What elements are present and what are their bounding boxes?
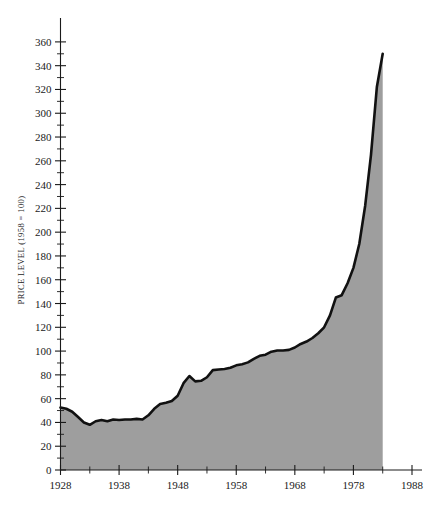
y-tick-label: 100 bbox=[35, 345, 52, 357]
y-tick-label: 180 bbox=[35, 250, 52, 262]
x-tick-label: 1988 bbox=[401, 479, 424, 491]
x-tick-label: 1958 bbox=[225, 479, 248, 491]
y-tick-label: 160 bbox=[35, 274, 52, 286]
y-tick-label: 280 bbox=[35, 131, 52, 143]
y-axis-title: PRICE LEVEL (1958 = 100) bbox=[16, 196, 26, 305]
y-tick-label: 200 bbox=[35, 226, 52, 238]
x-tick-label: 1948 bbox=[167, 479, 190, 491]
y-tick-label: 140 bbox=[35, 298, 52, 310]
y-tick-label: 260 bbox=[35, 155, 52, 167]
x-tick-label: 1978 bbox=[342, 479, 365, 491]
y-tick-label: 40 bbox=[41, 416, 53, 428]
x-tick-label: 1938 bbox=[108, 479, 131, 491]
y-tick-label: 0 bbox=[46, 464, 52, 476]
price-level-area-fill bbox=[61, 54, 383, 470]
y-tick-label: 300 bbox=[35, 107, 52, 119]
y-tick-label: 360 bbox=[35, 36, 52, 48]
y-tick-label: 320 bbox=[35, 83, 52, 95]
y-tick-label: 60 bbox=[41, 393, 53, 405]
y-tick-label: 340 bbox=[35, 60, 52, 72]
y-tick-label: 80 bbox=[41, 369, 53, 381]
y-tick-label: 20 bbox=[41, 440, 53, 452]
plot-area bbox=[61, 54, 383, 470]
y-tick-label: 220 bbox=[35, 202, 52, 214]
y-tick-label: 120 bbox=[35, 321, 52, 333]
chart-page: 0204060801001201401601802002202402602803… bbox=[0, 0, 442, 525]
y-tick-label: 240 bbox=[35, 179, 52, 191]
price-level-area-chart: 0204060801001201401601802002202402602803… bbox=[0, 0, 442, 525]
x-tick-label: 1968 bbox=[284, 479, 307, 491]
x-tick-label: 1928 bbox=[50, 479, 73, 491]
